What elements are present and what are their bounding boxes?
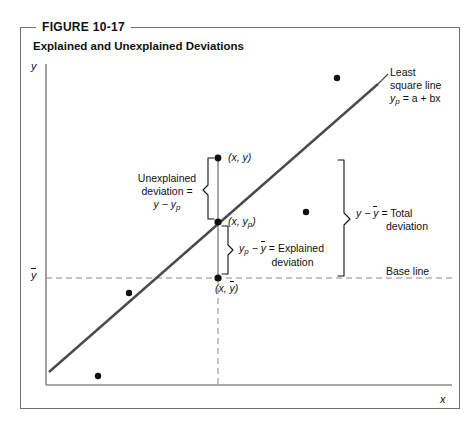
- total-ybar-glyph: y: [373, 207, 378, 219]
- point-label-xyp-rhs: ): [252, 215, 256, 227]
- y-mean-overline-wrapper: y: [31, 269, 37, 281]
- xybar-y-glyph: y: [230, 282, 235, 294]
- explained-ybar-wrapper: y: [261, 242, 266, 255]
- marked-point-xyp: [214, 218, 221, 225]
- point-label-xy: (x, y): [228, 151, 251, 164]
- unexplained-deviation-annotation: Unexplained deviation = y − yp: [131, 172, 203, 212]
- unexplained-deviation-bracket: [203, 158, 214, 219]
- least-square-line-annotation: Least square line yp = a + bx: [390, 66, 441, 106]
- least-square-leader-line: [378, 74, 388, 84]
- unexplained-deviation-text-2: deviation =: [131, 185, 203, 198]
- explained-deviation-bracket: [222, 226, 233, 274]
- unexplained-formula-lhs: y − y: [154, 198, 176, 210]
- marked-point-xy: [215, 155, 222, 162]
- point-label-xybar: (x, y): [215, 282, 238, 295]
- explained-deviation-annotation: yp − y = Explained deviation: [239, 242, 324, 269]
- unexplained-formula-subscript: p: [176, 203, 180, 212]
- least-square-line-text-2: square line: [390, 79, 441, 92]
- total-deviation-text-2: deviation: [356, 220, 428, 233]
- point-label-xyp-lhs: (x, y: [228, 215, 248, 227]
- overline-bar: [373, 206, 377, 207]
- unexplained-deviation-text-1: Unexplained: [131, 172, 203, 185]
- overline-bar: [31, 268, 36, 269]
- point-label-xyp: (x, yp): [228, 215, 256, 229]
- point-label-xyp-subscript: p: [248, 220, 252, 229]
- figure-root: FIGURE 10-17 Explained and Unexplained D…: [0, 0, 476, 428]
- total-deviation-annotation: y − y = Total deviation: [356, 207, 428, 233]
- scatter-point: [126, 290, 132, 296]
- x-axis-label: x: [440, 393, 446, 405]
- total-deviation-bracket: [338, 160, 350, 276]
- formula-rhs: = a + bx: [403, 92, 441, 104]
- overline-bar: [230, 281, 234, 282]
- explained-formula-mid: − y = Explained: [252, 242, 324, 254]
- y-axis-label: y: [31, 60, 37, 72]
- unexplained-deviation-formula: y − yp: [131, 198, 203, 212]
- scatter-point: [303, 209, 309, 215]
- total-ybar-wrapper: y: [373, 207, 378, 220]
- scatter-point: [95, 373, 101, 379]
- base-line-label: Base line: [386, 265, 429, 278]
- explained-ybar-glyph: y: [261, 242, 266, 254]
- explained-deviation-text-2: deviation: [239, 256, 324, 269]
- total-formula-y: y: [356, 207, 361, 219]
- y-mean-glyph: y: [31, 269, 37, 281]
- least-square-line-text-1: Least: [390, 66, 441, 79]
- y-mean-tick-label: y: [31, 269, 37, 281]
- xybar-x-glyph: x: [219, 282, 224, 294]
- overline-bar: [261, 241, 265, 242]
- scatter-point: [334, 75, 340, 81]
- xybar-overline-wrapper: y: [230, 282, 235, 295]
- formula-subscript: p: [395, 97, 399, 106]
- explained-formula-subscript: p: [244, 247, 248, 256]
- total-deviation-formula: y − y = Total: [356, 207, 428, 220]
- least-square-line: [49, 84, 378, 372]
- explained-deviation-formula: yp − y = Explained: [239, 242, 324, 256]
- least-square-line-formula: yp = a + bx: [390, 92, 441, 106]
- marked-point-xybar: [214, 274, 221, 281]
